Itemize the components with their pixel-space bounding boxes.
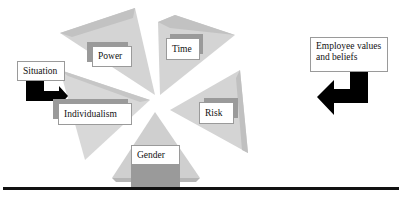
diagram-canvas: Power Time Situation Individualism Risk … (0, 0, 401, 198)
gender-tab-shadow (131, 165, 180, 187)
baseline-divider (3, 187, 399, 190)
gender-label: Gender (131, 145, 180, 165)
risk-label: Risk (199, 102, 234, 124)
employee-values-arrow-icon (317, 72, 368, 115)
power-label: Power (92, 46, 132, 67)
employee-values-label: Employee values and beliefs (310, 37, 388, 72)
time-label: Time (166, 38, 200, 60)
situation-label: Situation (17, 61, 65, 81)
individualism-label: Individualism (58, 103, 132, 125)
